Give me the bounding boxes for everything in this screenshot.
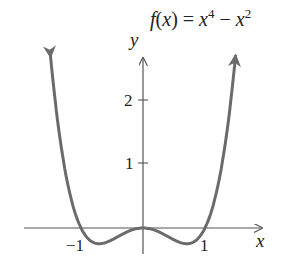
y-tick-label-2: 2: [124, 91, 133, 110]
y-axis-label: y: [128, 29, 139, 50]
x-axis-label: x: [255, 230, 265, 251]
x-tick-label-neg1: −1: [66, 236, 84, 255]
x-tick-label-1: 1: [200, 236, 209, 255]
function-label: f(x) = x4 − x2: [150, 6, 251, 31]
function-plot: 2 1 −1 1 x y f(x) = x4 − x2: [0, 0, 283, 278]
y-tick-label-1: 1: [125, 154, 134, 173]
